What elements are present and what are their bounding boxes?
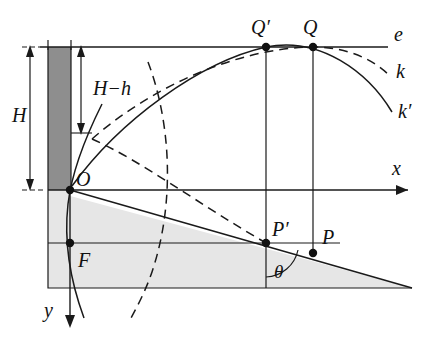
label-line-e: e (394, 24, 403, 44)
label-x-axis: x (392, 158, 401, 178)
ground-wedge-fill (48, 190, 412, 288)
label-curve-k-prime: k′ (398, 101, 411, 121)
point-P-prime (262, 239, 270, 247)
label-y-axis: y (44, 300, 53, 320)
point-F (66, 239, 74, 247)
curve-k (92, 47, 390, 139)
wall-fill (48, 47, 71, 190)
label-P-prime: P′ (272, 219, 289, 239)
diagram-svg (0, 0, 428, 341)
x-axis-arrowhead (396, 185, 408, 195)
label-H: H (12, 105, 26, 125)
label-Q: Q (303, 17, 317, 37)
label-theta: θ (274, 262, 283, 281)
label-P: P (322, 227, 334, 247)
label-Q-prime: Q′ (251, 17, 270, 37)
point-Q-prime (262, 43, 270, 51)
point-O (66, 186, 74, 194)
label-O: O (76, 169, 90, 189)
point-Q (309, 43, 317, 51)
diagram-canvas: H H−h O F P′ P Q′ Q θ x y e k k′ (0, 0, 428, 341)
point-P (309, 249, 317, 257)
label-curve-k: k (396, 61, 405, 81)
curve-k-prime (72, 45, 392, 186)
H-arrowhead-bottom (26, 179, 34, 191)
label-F: F (78, 250, 90, 270)
label-H-minus-h: H−h (93, 78, 131, 98)
y-axis-arrowhead (65, 315, 75, 328)
